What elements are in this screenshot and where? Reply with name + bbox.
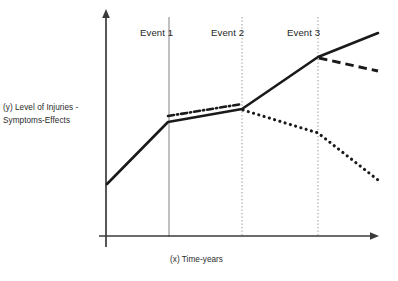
series-dashed-event3-branch [319,58,378,71]
y-axis-title-line-1: (y) Level of Injuries - [3,101,99,114]
series-dotted-event2-branch [243,110,378,180]
line-chart-canvas [0,0,398,281]
x-axis-arrow-icon [370,232,379,240]
event-label-2: Event 2 [211,27,244,38]
chart-page: Event 1 Event 2 Event 3 (y) Level of Inj… [0,0,398,281]
y-axis-arrow-icon [102,9,110,18]
event-label-3: Event 3 [287,27,320,38]
x-axis-title: (x) Time-years [170,253,223,266]
y-axis-title: (y) Level of Injuries - Symptoms-Effects [3,101,99,127]
y-axis-title-line-2: Symptoms-Effects [3,114,99,127]
event-label-1: Event 1 [140,27,173,38]
